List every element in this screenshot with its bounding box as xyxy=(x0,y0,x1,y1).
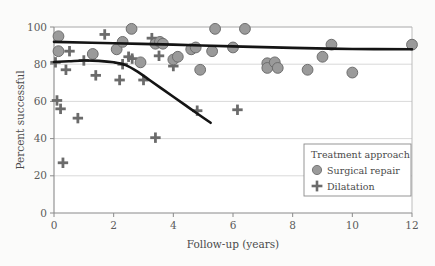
data-point-surgical-repair xyxy=(53,46,64,57)
x-tick-label: 6 xyxy=(230,219,237,231)
x-tick-label: 4 xyxy=(170,219,177,231)
legend-title: Treatment approach xyxy=(311,149,410,160)
scatter-plot: 020406080100 024681012 Follow-up (years)… xyxy=(0,0,435,266)
data-point-surgical-repair xyxy=(135,57,146,68)
legend-label-dilatation: Dilatation xyxy=(327,181,375,192)
data-point-surgical-repair xyxy=(347,67,358,78)
data-point-surgical-repair xyxy=(126,23,137,34)
data-point-surgical-repair xyxy=(190,42,201,53)
data-point-surgical-repair xyxy=(272,63,283,74)
x-tick-label: 12 xyxy=(405,219,418,231)
data-point-surgical-repair xyxy=(53,31,64,42)
x-tick-label: 0 xyxy=(51,219,58,231)
y-axis-ticks: 020406080100 xyxy=(27,21,54,219)
x-tick-label: 10 xyxy=(346,219,359,231)
y-tick-label: 40 xyxy=(34,132,47,144)
y-axis-title: Percent successful xyxy=(14,70,26,170)
x-tick-label: 2 xyxy=(110,219,117,231)
x-axis-title: Follow-up (years) xyxy=(187,238,279,250)
x-tick-label: 8 xyxy=(289,219,296,231)
data-point-surgical-repair xyxy=(172,51,183,62)
y-tick-label: 80 xyxy=(34,58,47,70)
legend: Treatment approach Surgical repair Dilat… xyxy=(304,144,411,196)
data-point-surgical-repair xyxy=(87,49,98,60)
data-point-surgical-repair xyxy=(302,64,313,75)
y-tick-label: 0 xyxy=(40,207,47,219)
data-point-surgical-repair xyxy=(210,23,221,34)
y-tick-label: 100 xyxy=(27,21,47,33)
y-tick-label: 60 xyxy=(34,95,47,107)
y-tick-label: 20 xyxy=(34,169,47,181)
data-point-surgical-repair xyxy=(317,51,328,62)
data-point-surgical-repair xyxy=(207,46,218,57)
legend-label-surgical-repair: Surgical repair xyxy=(327,165,400,176)
x-axis-ticks: 024681012 xyxy=(51,213,419,231)
data-point-surgical-repair xyxy=(117,36,128,47)
data-point-surgical-repair xyxy=(195,64,206,75)
chart-figure: 020406080100 024681012 Follow-up (years)… xyxy=(0,0,435,266)
legend-circle-icon xyxy=(312,165,321,174)
data-point-surgical-repair xyxy=(240,23,251,34)
